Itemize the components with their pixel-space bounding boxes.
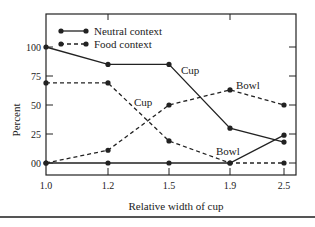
series-line [46,135,284,163]
data-point-marker [227,126,232,131]
legend-neutral-marker [83,28,88,33]
data-point-marker [105,80,110,85]
legend-neutral-label: Neutral context [94,25,162,37]
legend-food-label: Food context [94,38,152,50]
annotation-cup-neutral: Cup [181,64,200,76]
data-point-marker [105,148,110,153]
x-axis: 1.01.21.51.92.5 [40,14,291,191]
x-tick-label: 2.5 [278,180,291,191]
series-group [43,44,286,165]
y-tick-label: 75 [31,71,41,82]
y-tick-label: 25 [31,129,41,140]
plot-frame [46,14,296,175]
data-point-marker [166,62,171,67]
data-point-marker [227,87,232,92]
data-point-marker [281,133,286,138]
series-line [46,83,284,163]
data-point-marker [43,80,48,85]
legend: Neutral context Food context [58,25,162,50]
line-chart: 00255075100 1.01.21.51.92.5 Neutral cont… [0,0,315,227]
y-tick-label: 50 [31,100,41,111]
x-tick-label: 1.9 [224,180,237,191]
data-point-marker [281,140,286,145]
x-tick-label: 1.0 [40,180,53,191]
annotation-bowl-neutral: Bowl [216,145,240,157]
legend-neutral-marker [58,28,63,33]
data-point-marker [281,160,286,165]
x-axis-label: Relative width of cup [128,200,224,212]
data-point-marker [166,138,171,143]
data-point-marker [43,160,48,165]
legend-food-marker [83,41,88,46]
legend-food-marker [58,41,63,46]
data-point-marker [281,102,286,107]
data-point-marker [43,44,48,49]
data-point-marker [227,160,232,165]
y-tick-label: 00 [31,158,41,169]
x-tick-label: 1.5 [163,180,176,191]
y-tick-label: 100 [26,42,41,53]
y-axis-label: Percent [10,104,22,137]
annotation-cup-food: Cup [134,96,153,108]
series-line [46,90,284,163]
data-point-marker [105,160,110,165]
data-point-marker [166,102,171,107]
annotation-bowl-food: Bowl [236,79,260,91]
data-point-marker [105,62,110,67]
x-tick-label: 1.2 [102,180,115,191]
data-point-marker [166,160,171,165]
